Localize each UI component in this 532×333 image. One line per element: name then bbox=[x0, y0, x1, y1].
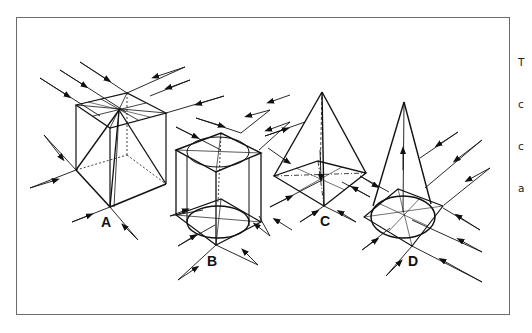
label-c: C bbox=[320, 213, 330, 229]
label-b: B bbox=[207, 253, 217, 269]
shape-b bbox=[170, 110, 290, 280]
shape-c bbox=[265, 92, 370, 230]
shape-d bbox=[360, 102, 490, 282]
side-caption-line: c bbox=[518, 139, 532, 153]
side-caption: T c c a bbox=[518, 27, 532, 209]
side-caption-line: T bbox=[518, 55, 532, 69]
label-a: A bbox=[101, 214, 111, 230]
side-caption-line: a bbox=[518, 181, 532, 195]
side-caption-line: c bbox=[518, 97, 532, 111]
label-d: D bbox=[408, 253, 418, 269]
technical-drawing: A B C D bbox=[0, 0, 532, 333]
